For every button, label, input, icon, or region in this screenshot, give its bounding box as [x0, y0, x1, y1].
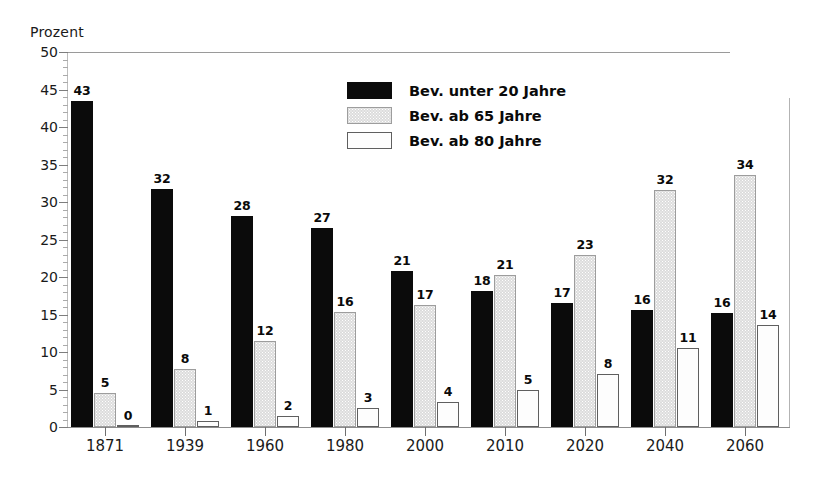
y-axis-tick-label: 40: [40, 119, 58, 135]
legend-swatch-icon: [347, 107, 392, 124]
legend-item: Bev. ab 80 Jahre: [347, 128, 566, 153]
y-axis-tick-label: 15: [40, 307, 58, 323]
y-axis-tick-label: 25: [40, 232, 58, 248]
y-axis-tick: [59, 202, 68, 203]
y-axis-tick-label: 10: [40, 344, 58, 360]
y-axis-tick: [59, 352, 68, 353]
y-axis-tick: [59, 240, 68, 241]
x-axis-tick-label: 1939: [166, 437, 204, 455]
y-axis-tick-label: 45: [40, 82, 58, 98]
y-axis-tick: [59, 315, 68, 316]
y-axis-tick: [59, 277, 68, 278]
y-axis-tick: [59, 390, 68, 391]
y-axis-tick: [59, 165, 68, 166]
x-axis-tick-label: 1960: [246, 437, 284, 455]
y-axis-tick-label: 5: [49, 382, 58, 398]
x-axis-tick-label: 1871: [86, 437, 124, 455]
legend-label: Bev. ab 80 Jahre: [409, 133, 542, 149]
y-axis-tick-label: 35: [40, 157, 58, 173]
legend-swatch-icon: [347, 132, 392, 149]
x-axis-tick-label: 2040: [646, 437, 684, 455]
y-axis-tick-label: 30: [40, 194, 58, 210]
legend-label: Bev. unter 20 Jahre: [409, 83, 566, 99]
y-axis-tick: [59, 90, 68, 91]
y-axis-tick: [59, 52, 68, 53]
legend-swatch-icon: [347, 82, 392, 99]
x-axis-tick-label: 2000: [406, 437, 444, 455]
legend: Bev. unter 20 JahreBev. ab 65 JahreBev. …: [347, 78, 566, 153]
legend-item: Bev. unter 20 Jahre: [347, 78, 566, 103]
legend-item: Bev. ab 65 Jahre: [347, 103, 566, 128]
x-axis: 187119391960198020002010202020402060: [68, 0, 790, 489]
y-axis: 05101520253035404550: [0, 52, 58, 427]
y-axis-tick-label: 50: [40, 44, 58, 60]
x-axis-tick-label: 2010: [486, 437, 524, 455]
legend-label: Bev. ab 65 Jahre: [409, 108, 542, 124]
y-axis-tick-label: 0: [49, 419, 58, 435]
y-axis-tick-label: 20: [40, 269, 58, 285]
y-axis-tick: [59, 127, 68, 128]
x-axis-tick-label: 1980: [326, 437, 364, 455]
x-axis-tick-label: 2060: [726, 437, 764, 455]
y-axis-tick: [59, 427, 68, 428]
x-axis-tick-label: 2020: [566, 437, 604, 455]
bar-chart: Prozent 05101520253035404550 43503281281…: [0, 0, 822, 489]
